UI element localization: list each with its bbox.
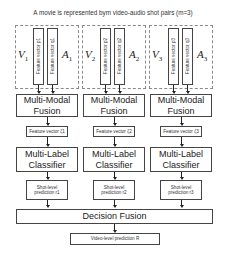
box-text: Multi-Modal xyxy=(91,95,138,106)
video-feature-vector-1: Feature vector p1 xyxy=(33,28,44,85)
box-text: Feature vector ζ3 xyxy=(163,129,198,135)
audio-subscript: 3 xyxy=(204,55,208,63)
video-symbol: V xyxy=(85,48,92,60)
video-feature-vector-3: Feature vector p3 xyxy=(168,28,179,85)
video-symbol: V xyxy=(18,48,25,60)
arrow-head xyxy=(46,205,50,208)
audio-label-2: A2 xyxy=(129,48,139,63)
decision-fusion-box: Decision Fusion xyxy=(16,209,213,224)
audio-symbol: A xyxy=(197,48,204,60)
video-prediction-box: Video-level prediction R xyxy=(70,233,160,245)
shot-prediction-box-3: Shot-levelprediction r3 xyxy=(160,180,202,200)
arrow-head xyxy=(113,205,117,208)
audio-label-1: A1 xyxy=(62,48,72,63)
fused-feature-vector-box-2: Feature vector ζ2 xyxy=(93,126,135,137)
video-label-1: V1 xyxy=(18,48,28,63)
video-feature-vector-2: Feature vector p2 xyxy=(100,28,111,85)
multi-modal-fusion-box-1: Multi-ModalFusion xyxy=(16,94,78,117)
box-text: Video-level prediction R xyxy=(91,236,139,242)
box-text: Classifier xyxy=(28,160,65,171)
multi-label-classifier-box-3: Multi-LabelClassifier xyxy=(150,147,212,172)
video-feature-text: Feature vector p3 xyxy=(171,38,176,74)
audio-feature-vector-2: Feature vector q2 xyxy=(114,28,125,85)
box-text: Feature vector ζ2 xyxy=(96,129,131,135)
multi-modal-fusion-box-3: Multi-ModalFusion xyxy=(150,94,212,117)
box-text: Fusion xyxy=(33,106,60,117)
box-text: prediction r1 xyxy=(34,190,59,196)
audio-symbol: A xyxy=(62,48,69,60)
shot-prediction-box-1: Shot-levelprediction r1 xyxy=(26,180,68,200)
audio-feature-text: Feature vector q1 xyxy=(50,38,55,74)
box-text: Multi-Label xyxy=(92,149,136,160)
video-label-3: V3 xyxy=(152,48,162,63)
video-subscript: 1 xyxy=(25,55,29,63)
video-feature-text: Feature vector p1 xyxy=(36,38,41,74)
box-text: Classifier xyxy=(95,160,132,171)
box-text: Decision Fusion xyxy=(82,211,146,222)
video-label-2: V2 xyxy=(85,48,95,63)
box-text: prediction r2 xyxy=(101,190,126,196)
box-text: prediction r3 xyxy=(168,190,193,196)
box-text: Classifier xyxy=(162,160,199,171)
box-text: Multi-Modal xyxy=(24,95,71,106)
audio-feature-text: Feature vector q3 xyxy=(185,38,190,74)
box-text: Multi-Label xyxy=(25,149,69,160)
shot-prediction-box-2: Shot-levelprediction r2 xyxy=(93,180,135,200)
audio-subscript: 2 xyxy=(136,55,140,63)
audio-feature-text: Feature vector q2 xyxy=(117,38,122,74)
video-subscript: 2 xyxy=(92,55,96,63)
video-subscript: 3 xyxy=(159,55,163,63)
arrow-head xyxy=(180,205,184,208)
box-text: Feature vector ζ1 xyxy=(29,129,64,135)
audio-feature-vector-3: Feature vector q3 xyxy=(182,28,193,85)
video-feature-text: Feature vector p2 xyxy=(103,38,108,74)
audio-feature-vector-1: Feature vector q1 xyxy=(47,28,58,85)
box-text: Multi-Label xyxy=(159,149,203,160)
diagram-title: A movie is represented bym video-audio s… xyxy=(0,9,226,16)
audio-label-3: A3 xyxy=(197,48,207,63)
audio-symbol: A xyxy=(129,48,136,60)
fused-feature-vector-box-1: Feature vector ζ1 xyxy=(26,126,68,137)
box-text: Fusion xyxy=(100,106,127,117)
box-text: Fusion xyxy=(167,106,194,117)
multi-label-classifier-box-2: Multi-LabelClassifier xyxy=(83,147,145,172)
fused-feature-vector-box-3: Feature vector ζ3 xyxy=(160,126,202,137)
box-text: Multi-Modal xyxy=(158,95,205,106)
multi-label-classifier-box-1: Multi-LabelClassifier xyxy=(16,147,78,172)
video-symbol: V xyxy=(152,48,159,60)
audio-subscript: 1 xyxy=(69,55,73,63)
multi-modal-fusion-box-2: Multi-ModalFusion xyxy=(83,94,145,117)
